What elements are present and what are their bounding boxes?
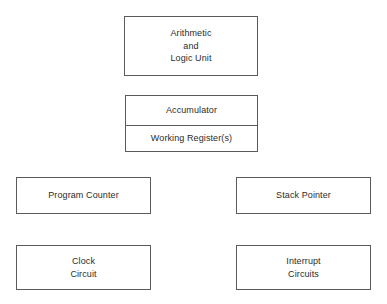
block-label: Program Counter xyxy=(48,189,119,202)
block-label-line: Arithmetic xyxy=(170,27,211,40)
block-label-line: Logic Unit xyxy=(170,52,211,65)
block-program-counter: Program Counter xyxy=(16,177,151,214)
block-working-registers: Working Register(s) xyxy=(126,125,257,151)
block-label-line: Interrupt xyxy=(286,255,320,268)
block-interrupt-circuits: Interrupt Circuits xyxy=(236,245,371,290)
block-accumulator: Accumulator xyxy=(126,96,257,125)
block-label-line: and xyxy=(183,40,198,53)
block-label-line: Circuits xyxy=(288,268,319,281)
block-label: Accumulator xyxy=(166,104,217,117)
block-label-line: Clock xyxy=(72,255,95,268)
block-label: Stack Pointer xyxy=(276,189,331,202)
block-label: Working Register(s) xyxy=(151,132,232,145)
block-clock-circuit: Clock Circuit xyxy=(16,245,151,290)
block-arithmetic-logic-unit: Arithmetic and Logic Unit xyxy=(124,16,258,76)
block-group-registers: Accumulator Working Register(s) xyxy=(125,95,258,152)
block-label-line: Circuit xyxy=(70,268,96,281)
cpu-block-diagram: Arithmetic and Logic Unit Accumulator Wo… xyxy=(0,0,387,304)
block-stack-pointer: Stack Pointer xyxy=(236,177,371,214)
